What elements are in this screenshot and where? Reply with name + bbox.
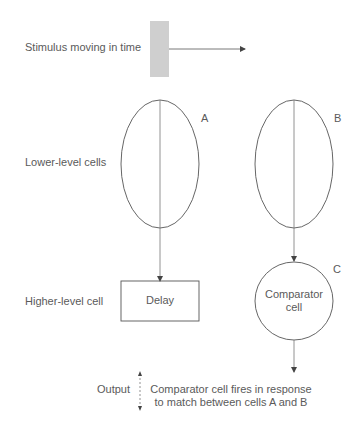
output-caption-line2: to match between cells A and B xyxy=(150,396,312,409)
stimulus-label: Stimulus moving in time xyxy=(25,41,141,53)
comparator-label-line1: Comparator xyxy=(255,288,333,301)
cell-c-letter: C xyxy=(333,263,341,275)
output-arrowhead-down xyxy=(138,406,142,411)
output-label: Output xyxy=(97,383,130,395)
output-caption-line1: Comparator cell fires in response xyxy=(150,383,312,396)
output-caption: Comparator cell fires in response to mat… xyxy=(150,383,312,409)
comparator-label-line2: cell xyxy=(255,301,333,314)
higher-level-label: Higher-level cell xyxy=(25,295,103,307)
lower-level-label: Lower-level cells xyxy=(25,156,106,168)
diagram-canvas xyxy=(0,0,359,431)
stimulus-bar xyxy=(150,21,169,77)
comparator-label: Comparator cell xyxy=(255,288,333,314)
output-arrowhead-up xyxy=(138,371,142,376)
cell-a-letter: A xyxy=(201,112,208,124)
cell-b-letter: B xyxy=(334,112,341,124)
delay-label: Delay xyxy=(121,294,199,307)
